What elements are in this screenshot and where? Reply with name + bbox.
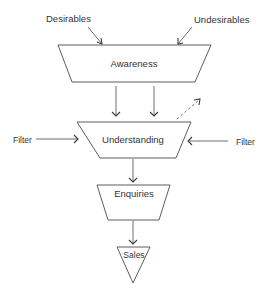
filter-left-arrow: [36, 135, 78, 143]
funnel-diagram: Desirables Undesirables Awareness Filter…: [0, 0, 266, 298]
stage-enquiries-label: Enquiries: [114, 188, 154, 199]
arrow-awareness-to-understanding-left: [112, 86, 120, 116]
stage-understanding: Understanding: [77, 122, 191, 158]
stage-awareness-label: Awareness: [111, 58, 158, 69]
filter-right-arrow: [188, 137, 228, 145]
undesirables-label: Undesirables: [194, 14, 250, 25]
arrow-awareness-to-understanding-right: [150, 86, 158, 116]
arrow-enquiries-to-sales: [129, 221, 137, 244]
stage-sales: Sales: [117, 247, 150, 283]
undesirables-arrow: [178, 27, 192, 44]
stage-sales-label: Sales: [123, 250, 144, 260]
arrow-understanding-to-enquiries: [129, 159, 137, 182]
filter-left-label: Filter: [13, 135, 32, 145]
dashed-leak-arrow: [177, 99, 200, 119]
filter-right-label: Filter: [236, 137, 255, 147]
stage-awareness: Awareness: [58, 45, 211, 82]
stage-enquiries: Enquiries: [97, 185, 170, 220]
stage-understanding-label: Understanding: [102, 134, 164, 145]
desirables-arrow: [88, 27, 102, 44]
desirables-label: Desirables: [46, 13, 91, 24]
